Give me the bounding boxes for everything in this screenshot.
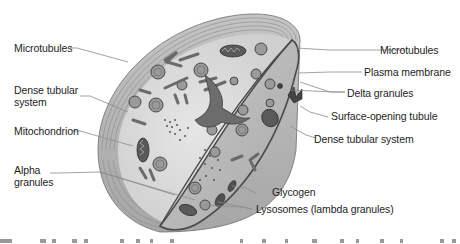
cutoff-caption-strip — [0, 238, 460, 244]
label-microtubules-left: Microtubules — [14, 42, 72, 54]
label-text: Dense tubular — [14, 84, 78, 96]
label-lysosomes: Lysosomes (lambda granules) — [256, 203, 394, 215]
label-text: Dense tubular system — [314, 133, 414, 145]
label-text-line2: granules — [14, 176, 53, 188]
label-mitochondrion: Mitochondrion — [14, 125, 79, 137]
label-dense-tubular-system-right: Dense tubular system — [314, 133, 414, 145]
label-text: Alpha — [14, 164, 40, 176]
label-text: Lysosomes (lambda granules) — [256, 203, 394, 215]
label-text: Plasma membrane — [364, 66, 451, 78]
label-text: Microtubules — [14, 42, 72, 54]
label-plasma-membrane: Plasma membrane — [364, 66, 451, 78]
label-text: Glycogen — [272, 186, 316, 198]
platelet-diagram: Microtubules Dense tubular system Mitoch… — [0, 0, 460, 244]
label-alpha-granules: Alpha granules — [14, 164, 53, 188]
label-text: Delta granules — [347, 87, 413, 99]
label-delta-granules: Delta granules — [347, 87, 413, 99]
label-dense-tubular-system-left: Dense tubular system — [14, 84, 78, 108]
label-glycogen: Glycogen — [272, 186, 316, 198]
label-text-line2: system — [14, 96, 47, 108]
label-text: Surface-opening tubule — [331, 110, 437, 122]
label-text: Microtubules — [380, 44, 438, 56]
label-microtubules-right: Microtubules — [380, 44, 438, 56]
label-text: Mitochondrion — [14, 125, 79, 137]
label-surface-opening-tubule: Surface-opening tubule — [331, 110, 437, 122]
